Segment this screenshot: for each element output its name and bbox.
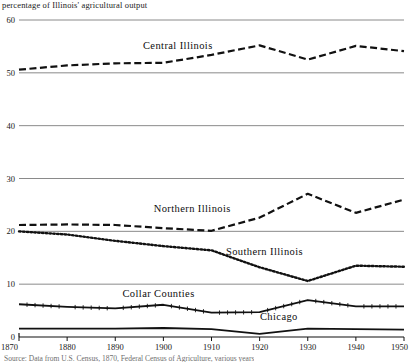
x-axis-tick-label: 1920 [251, 342, 268, 352]
y-axis-tick-label: 60 [7, 15, 16, 25]
x-axis-tick-label: 1870 [1, 342, 18, 352]
series-label-collar-counties: Collar Counties [122, 288, 194, 299]
series-line-chicago [19, 328, 404, 334]
x-axis-tick-label: 1900 [155, 342, 172, 352]
source-note: Source: Data from U.S. Census, 1870, Fed… [4, 354, 254, 362]
x-axis-tick-label: 1880 [59, 342, 76, 352]
series-line-collar-counties [19, 300, 404, 313]
series-label-central-illinois: Central Illinois [143, 40, 213, 51]
series-label-northern-illinois: Northern Illinois [154, 203, 231, 214]
series-label-southern-illinois: Southern Illinois [226, 246, 303, 257]
y-axis-tick-label: 20 [7, 226, 16, 236]
x-axis-tick-label: 1910 [203, 342, 220, 352]
x-axis-tick-label: 1940 [347, 342, 364, 352]
line-chart-plot: 1020304050600187018801890190019101920193… [0, 0, 410, 362]
x-axis-tick-label: 1950 [391, 342, 408, 352]
series-label-chicago: Chicago [260, 311, 298, 322]
x-axis-tick-label: 1890 [107, 342, 124, 352]
y-axis-tick-label: 0 [11, 332, 15, 342]
y-axis-tick-label: 30 [7, 174, 16, 184]
y-axis-tick-label: 50 [7, 68, 16, 78]
chart-figure: percentage of Illinois' agricultural out… [0, 0, 410, 362]
y-axis-tick-label: 10 [7, 279, 16, 289]
x-axis-tick-label: 1930 [299, 342, 316, 352]
y-axis-tick-label: 40 [7, 121, 16, 131]
series-line-southern-illinois [19, 231, 404, 281]
